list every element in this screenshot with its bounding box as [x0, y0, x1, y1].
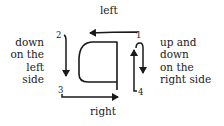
label-right-direction: right [90, 105, 116, 117]
label-right-side: up and down on the right side [160, 36, 211, 85]
label-left-side: down on the left side [2, 36, 44, 85]
arrow-4-up-down [134, 50, 137, 91]
stroke-number-1: 1 [136, 31, 141, 40]
letter-shape [79, 42, 117, 90]
label-left-direction: left [100, 4, 118, 16]
arrow-1-left [90, 32, 137, 33]
label-line: left [2, 61, 44, 73]
stroke-number-4: 4 [138, 88, 143, 97]
label-line: on the [160, 61, 211, 73]
arrow-4-loop-down [136, 43, 143, 73]
stroke-number-2: 2 [56, 31, 61, 40]
label-line: down [2, 36, 44, 48]
label-line: right side [160, 73, 211, 85]
stroke-number-3: 3 [58, 86, 63, 95]
label-line: up and [160, 36, 211, 48]
label-line: on the [2, 48, 44, 60]
label-line: side [2, 73, 44, 85]
arrow-2-down [64, 35, 66, 76]
arrow-3-right [62, 94, 118, 97]
label-line: down [160, 48, 211, 60]
